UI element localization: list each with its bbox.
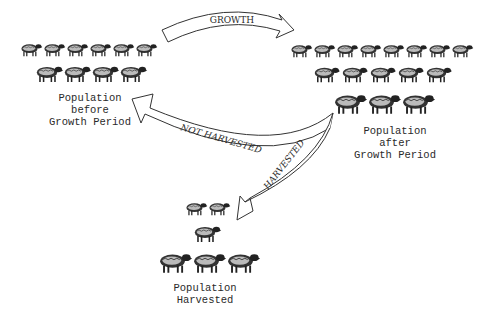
harvested-label-line2: Harvested	[150, 294, 260, 306]
after-label-line1: Population	[335, 125, 455, 137]
after-label-line2: after	[335, 137, 455, 149]
growth-label: GROWTH	[210, 15, 255, 25]
population-harvest-diagram: GROWTH NOT HARVESTED HARVESTED	[0, 0, 499, 316]
after-sheep-group	[291, 45, 473, 114]
growth-arrow: GROWTH	[162, 12, 294, 42]
before-population-label: Population before Growth Period	[20, 92, 160, 128]
before-label-line3: Growth Period	[20, 116, 160, 128]
after-label-line3: Growth Period	[335, 149, 455, 161]
after-population-label: Population after Growth Period	[335, 125, 455, 161]
before-label-line1: Population	[20, 92, 160, 104]
before-sheep-group	[21, 44, 157, 82]
harvested-label-line1: Population	[150, 282, 260, 294]
harvested-population-label: Population Harvested	[150, 282, 260, 306]
before-label-line2: before	[20, 104, 160, 116]
